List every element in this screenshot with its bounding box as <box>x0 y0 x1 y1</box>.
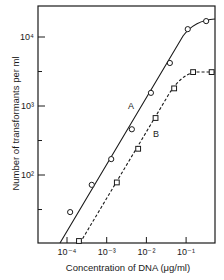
label-a: A <box>128 101 134 111</box>
data-point-b <box>209 70 214 75</box>
data-point-b <box>114 180 119 185</box>
data-point-a <box>89 182 94 187</box>
y-tick-label: 10³ <box>21 101 34 111</box>
series-curves <box>60 19 215 243</box>
data-point-a <box>148 90 153 95</box>
data-point-b <box>136 146 141 151</box>
curve-b <box>80 72 215 243</box>
y-tick-label: 10⁴ <box>20 32 34 42</box>
data-point-a <box>109 156 114 161</box>
data-point-a <box>204 18 209 23</box>
data-point-a <box>167 60 172 65</box>
x-tick-label: 10⁻¹ <box>177 247 195 257</box>
x-tick-label: 10⁻² <box>137 247 155 257</box>
transformants-chart: 10⁻⁴10⁻³10⁻²10⁻¹ 10²10³10⁴ AB <box>0 0 224 280</box>
data-point-b <box>191 70 196 75</box>
x-axis-label: Concentration of DNA (μg/ml) <box>38 262 218 273</box>
y-axis-label: Number of transformants per ml <box>10 39 21 209</box>
curve-a <box>60 19 215 243</box>
label-b: B <box>153 129 159 139</box>
plot-frame <box>38 6 215 243</box>
x-tick-label: 10⁻³ <box>98 247 116 257</box>
x-tick-label: 10⁻⁴ <box>58 247 77 257</box>
data-point-a <box>68 209 73 214</box>
data-point-a <box>129 127 134 132</box>
data-point-b <box>153 116 158 121</box>
data-point-b <box>172 86 177 91</box>
data-point-a <box>185 27 190 32</box>
y-tick-label: 10² <box>21 170 34 180</box>
series-markers <box>68 18 215 243</box>
y-axis-ticks: 10²10³10⁴ <box>20 32 45 210</box>
data-point-b <box>77 239 82 244</box>
